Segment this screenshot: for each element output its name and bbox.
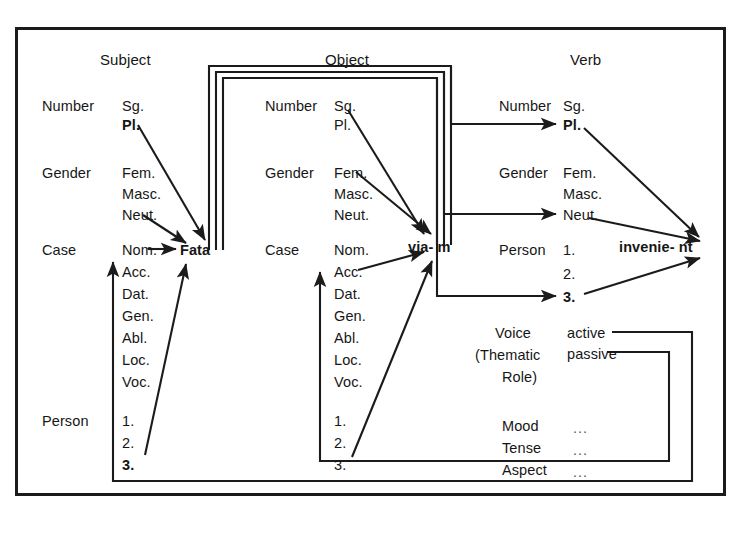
subject-person-2: 2.: [122, 436, 134, 451]
object-case-nom: Nom.: [334, 243, 369, 258]
verb-number-sg: Sg.: [563, 99, 585, 114]
object-person-3: 3.: [334, 458, 346, 473]
voice-value-aspect: ...: [573, 465, 588, 480]
subject-case-nom: Nom.: [122, 243, 157, 258]
voice-label-mood: Mood: [502, 419, 539, 434]
object-case-dat: Dat.: [334, 287, 361, 302]
subject-number-sg: Sg.: [122, 99, 144, 114]
verb-number-pl: Pl.: [563, 118, 581, 133]
verb-gender-neut: Neut.: [563, 208, 598, 223]
verb-word-invenient: invenie- nt: [619, 240, 693, 255]
object-person-2: 2.: [334, 436, 346, 451]
subject-case-acc: Acc.: [122, 265, 151, 280]
subject-case-abl: Abl.: [122, 331, 147, 346]
verb-gender-fem: Fem.: [563, 166, 596, 181]
object-gender-masc: Masc.: [334, 187, 373, 202]
subject-label-person: Person: [42, 414, 89, 429]
voice-value-mood: ...: [573, 421, 588, 436]
verb-label-person: Person: [499, 243, 546, 258]
voice-label-tense: Tense: [502, 441, 541, 456]
subject-label-number: Number: [42, 99, 94, 114]
object-number-pl: Pl.: [334, 118, 351, 133]
column-title-object: Object: [325, 52, 369, 67]
verb-person-3: 3.: [563, 290, 575, 305]
voice-value-tense: ...: [573, 443, 588, 458]
object-number-sg: Sg.: [334, 99, 356, 114]
verb-label-number: Number: [499, 99, 551, 114]
verb-person-2: 2.: [563, 267, 575, 282]
object-word-viam: via- m: [408, 240, 451, 255]
subject-case-voc: Voc.: [122, 375, 151, 390]
column-title-subject: Subject: [100, 52, 151, 67]
object-case-loc: Loc.: [334, 353, 362, 368]
column-title-verb: Verb: [570, 52, 601, 67]
subject-number-pl: Pl.: [122, 118, 140, 133]
voice-label-line3: Role): [502, 370, 537, 385]
object-case-acc: Acc.: [334, 265, 363, 280]
verb-person-1: 1.: [563, 243, 575, 258]
subject-person-1: 1.: [122, 414, 134, 429]
subject-person-3: 3.: [122, 458, 134, 473]
object-gender-neut: Neut.: [334, 208, 369, 223]
object-gender-fem: Fem.: [334, 166, 367, 181]
voice-label-line1: Voice: [495, 326, 531, 341]
object-case-abl: Abl.: [334, 331, 359, 346]
subject-case-dat: Dat.: [122, 287, 149, 302]
object-label-case: Case: [265, 243, 299, 258]
voice-value-passive: passive: [567, 347, 617, 362]
subject-case-gen: Gen.: [122, 309, 154, 324]
verb-label-gender: Gender: [499, 166, 548, 181]
subject-word-fata: Fata: [180, 243, 210, 258]
object-case-gen: Gen.: [334, 309, 366, 324]
subject-gender-neut: Neut.: [122, 208, 157, 223]
voice-label-line2: (Thematic: [475, 348, 540, 363]
subject-case-loc: Loc.: [122, 353, 150, 368]
subject-gender-masc: Masc.: [122, 187, 161, 202]
diagram-canvas: Subject Number Sg. Pl. Gender Fem. Masc.…: [0, 0, 746, 541]
verb-gender-masc: Masc.: [563, 187, 602, 202]
object-person-1: 1.: [334, 414, 346, 429]
subject-gender-fem: Fem.: [122, 166, 155, 181]
voice-label-aspect: Aspect: [502, 463, 547, 478]
subject-label-case: Case: [42, 243, 76, 258]
voice-value-active: active: [567, 326, 605, 341]
subject-label-gender: Gender: [42, 166, 91, 181]
object-label-number: Number: [265, 99, 317, 114]
object-case-voc: Voc.: [334, 375, 363, 390]
object-label-gender: Gender: [265, 166, 314, 181]
